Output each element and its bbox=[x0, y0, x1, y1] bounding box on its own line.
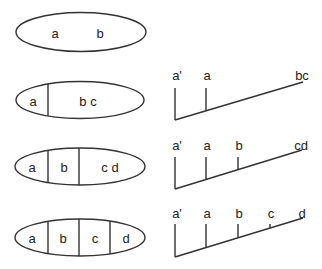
taxon-label: a' bbox=[172, 206, 182, 221]
taxon-label: a' bbox=[172, 138, 182, 153]
partition-label: b bbox=[96, 26, 103, 41]
partition-ellipse-group: ab c bbox=[16, 82, 144, 119]
row-1: ab bbox=[16, 13, 146, 52]
taxon-label: c bbox=[268, 206, 275, 221]
row-2: ab ca'abc bbox=[16, 68, 309, 121]
partition-label: a bbox=[28, 231, 36, 246]
partition-label: d bbox=[122, 231, 129, 246]
cladogram-spine bbox=[175, 218, 303, 257]
partition-label: b bbox=[59, 231, 66, 246]
taxon-label: a bbox=[203, 206, 211, 221]
partition-label: a bbox=[29, 94, 37, 109]
taxon-label: a bbox=[203, 138, 211, 153]
cladogram: a'abcd bbox=[172, 206, 305, 258]
cladogram: a'abc bbox=[172, 68, 309, 121]
cladogram-spine bbox=[175, 82, 303, 120]
partition-label: a bbox=[28, 160, 36, 175]
partition-ellipse-group: abcd bbox=[15, 219, 145, 256]
partition-label: b bbox=[60, 160, 67, 175]
partition-label: a bbox=[51, 26, 59, 41]
taxon-label: b bbox=[235, 138, 242, 153]
partition-label: c bbox=[92, 231, 99, 246]
taxon-label: bc bbox=[295, 68, 309, 83]
diagram-canvas: abab ca'abcabc da'abcdabcda'abcd bbox=[0, 0, 322, 269]
row-3: abc da'abcd bbox=[15, 138, 308, 190]
taxon-label: a bbox=[203, 68, 211, 83]
partition-ellipse-group: abc d bbox=[15, 148, 145, 185]
cladogram: a'abcd bbox=[172, 138, 308, 190]
taxon-label: b bbox=[235, 206, 242, 221]
partition-label: b c bbox=[79, 94, 97, 109]
row-4: abcda'abcd bbox=[15, 206, 306, 258]
partition-ellipse-group: ab bbox=[16, 13, 146, 52]
taxon-label: a' bbox=[172, 68, 182, 83]
partition-ellipse bbox=[16, 13, 146, 52]
partition-label: c d bbox=[101, 160, 118, 175]
taxon-label: cd bbox=[294, 138, 308, 153]
taxon-label: d bbox=[298, 206, 305, 221]
